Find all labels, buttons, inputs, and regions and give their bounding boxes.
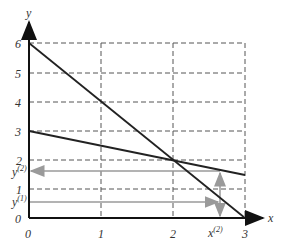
x-tick-3: 3 bbox=[241, 227, 248, 241]
y-axis-label: y bbox=[25, 6, 32, 20]
y2-label: y(2) bbox=[11, 164, 27, 179]
x2-label: x(2) bbox=[207, 225, 223, 240]
y-tick-4: 4 bbox=[15, 96, 21, 110]
x-tick-0: 0 bbox=[25, 227, 31, 241]
y-tick-5: 5 bbox=[15, 67, 21, 81]
y1-label: y(1) bbox=[11, 194, 27, 209]
x-tick-1: 1 bbox=[98, 227, 104, 241]
y-tick-3: 3 bbox=[14, 125, 21, 139]
diagram-canvas: x y 0 1 2 3 0 1 2 3 4 5 6 y(2) y(1) x(2) bbox=[0, 0, 285, 252]
y-tick-0: 0 bbox=[15, 212, 21, 226]
y-tick-6: 6 bbox=[15, 37, 21, 51]
line-2 bbox=[29, 131, 245, 175]
annotation-arrows bbox=[29, 171, 220, 216]
x-tick-2: 2 bbox=[170, 227, 176, 241]
x-axis-label: x bbox=[267, 211, 274, 225]
